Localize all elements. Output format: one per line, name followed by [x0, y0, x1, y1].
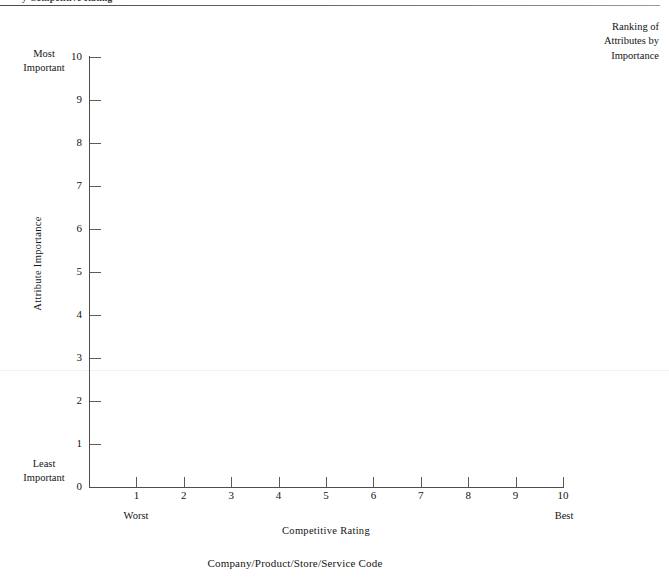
- x-axis-tick-label: 3: [219, 489, 243, 501]
- x-axis-tick: [516, 477, 517, 487]
- x-axis-tick-label: 5: [314, 489, 338, 501]
- y-axis-tick: [90, 57, 101, 58]
- ranking-legend-line-3: Importance: [563, 49, 659, 63]
- x-axis-line: [89, 487, 564, 488]
- x-axis-tick-label: 6: [361, 489, 385, 501]
- worksheet-page: y Competitive Rating Ranking of Attribut…: [0, 0, 669, 577]
- y-axis-tick-label: 8: [60, 136, 82, 148]
- y-axis-tick-label: 2: [60, 394, 82, 406]
- running-header-title: y Competitive Rating: [22, 0, 113, 3]
- x-axis-tick: [326, 477, 327, 487]
- y-axis-tick: [90, 444, 101, 445]
- y-axis-tick-label: 10: [60, 50, 82, 62]
- y-axis-tick: [90, 315, 101, 316]
- x-axis-title: Competitive Rating: [236, 525, 416, 536]
- x-axis-tick-label: 9: [504, 489, 528, 501]
- x-axis-tick: [184, 477, 185, 487]
- x-axis-tick: [231, 477, 232, 487]
- ranking-legend-line-2: Attributes by: [563, 34, 659, 48]
- x-axis-high-anchor-label: Best: [538, 510, 590, 521]
- y-axis-tick-label: 3: [60, 351, 82, 363]
- scan-artifact-line: [0, 370, 669, 371]
- x-axis-tick-label: 4: [267, 489, 291, 501]
- y-axis-tick-label: 6: [60, 222, 82, 234]
- y-axis-title: Attribute Importance: [32, 194, 43, 334]
- y-axis-tick-label: 0: [60, 480, 82, 492]
- y-axis-tick: [90, 272, 101, 273]
- ranking-legend-line-1: Ranking of: [563, 20, 659, 34]
- x-axis-tick: [136, 477, 137, 487]
- y-axis-tick-label: 9: [60, 93, 82, 105]
- y-axis-tick: [90, 401, 101, 402]
- x-axis-tick-label: 10: [551, 489, 575, 501]
- y-axis-tick: [90, 100, 101, 101]
- x-axis-tick-label: 7: [409, 489, 433, 501]
- y-axis-tick: [90, 143, 101, 144]
- y-axis-bottom-anchor-line-1: Least: [14, 457, 74, 471]
- x-axis-tick: [373, 477, 374, 487]
- y-axis-tick: [90, 229, 101, 230]
- header-rule: [0, 5, 660, 6]
- x-axis-tick: [563, 477, 564, 487]
- ranking-legend: Ranking of Attributes by Importance: [563, 20, 659, 63]
- x-axis-low-anchor-label: Worst: [110, 510, 162, 521]
- y-axis-tick-label: 1: [60, 437, 82, 449]
- y-axis-tick: [90, 186, 101, 187]
- x-axis-tick: [421, 477, 422, 487]
- y-axis-top-anchor-line-2: Important: [14, 61, 74, 75]
- x-axis-tick-label: 1: [124, 489, 148, 501]
- y-axis-tick-label: 5: [60, 265, 82, 277]
- y-axis-tick-label: 7: [60, 179, 82, 191]
- x-axis-tick: [468, 477, 469, 487]
- x-axis-tick: [279, 477, 280, 487]
- y-axis-tick-label: 4: [60, 308, 82, 320]
- footer-caption: Company/Product/Store/Service Code: [130, 557, 460, 569]
- x-axis-tick-label: 2: [172, 489, 196, 501]
- x-axis-tick-label: 8: [456, 489, 480, 501]
- y-axis-tick: [90, 358, 101, 359]
